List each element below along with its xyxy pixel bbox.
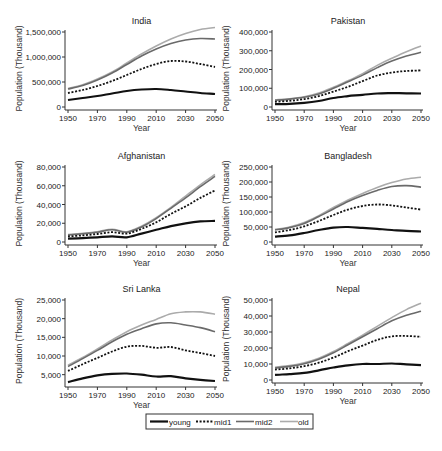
y-tick-label: 200,000 bbox=[239, 66, 268, 75]
x-tick-label: 2010 bbox=[147, 114, 165, 123]
y-axis-label: Population (Thousand) bbox=[14, 160, 24, 246]
x-tick-label: 1990 bbox=[118, 249, 136, 258]
x-tick-label: 2010 bbox=[147, 249, 165, 258]
x-tick-label: 2050 bbox=[412, 114, 430, 123]
x-tick-label: 1950 bbox=[266, 114, 284, 123]
y-tick-label: 40,000 bbox=[37, 201, 62, 210]
x-tick-label: 2030 bbox=[383, 114, 401, 123]
chart-title: India bbox=[132, 16, 152, 26]
y-tick-label: 10,000 bbox=[37, 352, 62, 361]
legend-label-mid1: mid1 bbox=[214, 418, 232, 427]
y-tick-label: 40,000 bbox=[244, 312, 269, 321]
series-line-old bbox=[68, 175, 215, 235]
series-line-mid1 bbox=[68, 61, 215, 93]
series-line-old bbox=[275, 46, 421, 100]
x-tick-label: 1990 bbox=[325, 387, 343, 396]
x-axis-label: Year bbox=[133, 400, 150, 410]
y-tick-label: 500,000 bbox=[32, 78, 61, 87]
y-axis-label: Population (Thousand) bbox=[221, 160, 231, 246]
y-tick-label: 400,000 bbox=[239, 28, 268, 37]
x-axis-label: Year bbox=[339, 396, 356, 406]
series-line-mid2 bbox=[275, 311, 421, 368]
y-tick-label: 250,000 bbox=[239, 163, 268, 172]
x-tick-label: 2030 bbox=[177, 391, 195, 400]
x-tick-label: 2050 bbox=[206, 249, 224, 258]
x-tick-label: 2010 bbox=[354, 114, 372, 123]
y-tick-label: 300,000 bbox=[239, 47, 268, 56]
y-tick-label: 0 bbox=[264, 103, 269, 112]
x-tick-label: 2030 bbox=[177, 249, 195, 258]
y-tick-label: 0 bbox=[57, 103, 62, 112]
series-line-mid1 bbox=[68, 190, 215, 236]
x-tick-label: 2010 bbox=[147, 391, 165, 400]
series-line-mid2 bbox=[275, 186, 421, 230]
x-tick-label: 2010 bbox=[354, 387, 372, 396]
x-tick-label: 1990 bbox=[118, 114, 136, 123]
legend-label-young: young bbox=[169, 418, 191, 427]
x-axis-label: Year bbox=[133, 258, 150, 268]
y-tick-label: 100,000 bbox=[239, 208, 268, 217]
y-axis-label: Population (Thousand) bbox=[221, 25, 231, 111]
x-tick-label: 2050 bbox=[412, 249, 430, 258]
chart-title: Afghanistan bbox=[118, 151, 166, 161]
population-figure: India0500,0001,000,0001,500,000195019701… bbox=[0, 0, 442, 451]
series-line-mid2 bbox=[68, 323, 215, 367]
x-tick-label: 2010 bbox=[354, 249, 372, 258]
y-tick-label: 15,000 bbox=[37, 333, 62, 342]
legend: youngmid1mid2old bbox=[146, 414, 313, 429]
x-tick-label: 1950 bbox=[59, 114, 77, 123]
y-axis-label: Population (Thousand) bbox=[14, 25, 24, 111]
x-tick-label: 1970 bbox=[295, 387, 313, 396]
y-tick-label: 150,000 bbox=[239, 193, 268, 202]
series-line-mid1 bbox=[68, 346, 215, 371]
y-axis-label: Population (Thousand) bbox=[221, 296, 231, 382]
legend-label-old: old bbox=[298, 418, 309, 427]
series-line-young bbox=[68, 373, 215, 382]
x-tick-label: 1950 bbox=[266, 249, 284, 258]
x-tick-label: 1990 bbox=[325, 249, 343, 258]
y-tick-label: 10,000 bbox=[244, 360, 269, 369]
series-line-old bbox=[68, 312, 215, 366]
y-tick-label: 80,000 bbox=[37, 163, 62, 172]
y-tick-label: 0 bbox=[264, 238, 269, 247]
panel-sri-lanka: Sri Lanka5,00010,00015,00020,00025,00019… bbox=[14, 284, 224, 410]
x-axis-label: Year bbox=[133, 123, 150, 133]
y-tick-label: 50,000 bbox=[244, 223, 269, 232]
y-tick-label: 1,000,000 bbox=[25, 53, 61, 62]
x-tick-label: 1970 bbox=[89, 249, 107, 258]
y-tick-label: 20,000 bbox=[37, 315, 62, 324]
chart-title: Sri Lanka bbox=[122, 284, 160, 294]
y-tick-label: 20,000 bbox=[37, 219, 62, 228]
x-axis-label: Year bbox=[339, 123, 356, 133]
panel-pakistan: Pakistan0100,000200,000300,000400,000195… bbox=[221, 16, 430, 133]
x-tick-label: 2030 bbox=[383, 387, 401, 396]
x-tick-label: 2050 bbox=[206, 114, 224, 123]
panel-afghanistan: Afghanistan020,00040,00060,00080,0001950… bbox=[14, 151, 224, 268]
x-tick-label: 1970 bbox=[89, 391, 107, 400]
chart-title: Pakistan bbox=[331, 16, 366, 26]
x-tick-label: 1950 bbox=[59, 391, 77, 400]
x-tick-label: 1950 bbox=[266, 387, 284, 396]
x-axis-label: Year bbox=[339, 258, 356, 268]
x-tick-label: 1970 bbox=[295, 114, 313, 123]
x-tick-label: 1950 bbox=[59, 249, 77, 258]
panel-nepal: Nepal010,00020,00030,00040,00050,0001950… bbox=[221, 284, 430, 406]
series-line-young bbox=[68, 89, 215, 100]
x-tick-label: 2050 bbox=[412, 387, 430, 396]
y-tick-label: 100,000 bbox=[239, 84, 268, 93]
y-tick-label: 25,000 bbox=[37, 296, 62, 305]
chart-title: Bangladesh bbox=[324, 151, 372, 161]
series-line-mid2 bbox=[68, 176, 215, 235]
panel-bangladesh: Bangladesh050,000100,000150,000200,00025… bbox=[221, 151, 430, 268]
x-tick-label: 2030 bbox=[177, 114, 195, 123]
y-tick-label: 20,000 bbox=[244, 344, 269, 353]
x-tick-label: 2050 bbox=[206, 391, 224, 400]
series-line-old bbox=[275, 303, 421, 367]
chart-title: Nepal bbox=[336, 284, 360, 294]
legend-label-mid2: mid2 bbox=[255, 418, 273, 427]
x-tick-label: 1970 bbox=[89, 114, 107, 123]
panel-india: India0500,0001,000,0001,500,000195019701… bbox=[14, 16, 224, 133]
y-tick-label: 200,000 bbox=[239, 178, 268, 187]
y-tick-label: 30,000 bbox=[244, 328, 269, 337]
series-line-old bbox=[68, 28, 215, 89]
